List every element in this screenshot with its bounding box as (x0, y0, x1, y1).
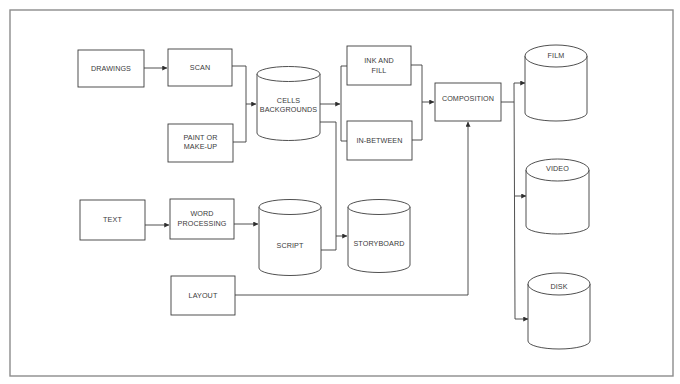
node-label: PROCESSING (178, 219, 227, 228)
node-label: TEXT (103, 215, 122, 224)
node-label: STORYBOARD (353, 239, 404, 248)
workflow-diagram: DRAWINGS SCAN PAINT OR MAKE-UP INK AND F… (0, 0, 680, 384)
node-text: TEXT (80, 200, 145, 240)
node-in-between: IN-BETWEEN (347, 121, 412, 160)
node-label: LAYOUT (189, 291, 218, 300)
node-label: VIDEO (546, 164, 569, 173)
node-label: PAINT OR (183, 133, 217, 142)
node-script: SCRIPT (259, 200, 321, 276)
node-disk: DISK (528, 273, 590, 349)
node-film: FILM (525, 45, 587, 121)
node-label: SCAN (190, 63, 210, 72)
edge-script-storyboard (321, 236, 336, 250)
node-label: IN-BETWEEN (356, 136, 402, 145)
node-label: INK AND (364, 56, 393, 65)
node-ink-fill: INK AND FILL (347, 46, 411, 85)
node-drawings: DRAWINGS (78, 50, 144, 87)
edge-output-bus (514, 83, 515, 319)
node-label: BACKGROUNDS (260, 105, 318, 114)
node-label: SCRIPT (277, 241, 304, 250)
node-cells-backgrounds: CELLS BACKGROUNDS (257, 67, 320, 141)
node-word-processing: WORD PROCESSING (170, 199, 234, 239)
node-scan: SCAN (168, 49, 232, 86)
node-label: WORD (190, 209, 213, 218)
node-label: FILL (372, 66, 387, 75)
node-label: COMPOSITION (442, 94, 494, 103)
node-video: VIDEO (526, 159, 589, 234)
edge-cells-storyboard (320, 122, 336, 236)
node-label: MAKE-UP (184, 142, 218, 151)
node-layout: LAYOUT (171, 276, 235, 315)
node-label: FILM (548, 51, 565, 60)
edge-process-merge (411, 65, 422, 140)
node-storyboard: STORYBOARD (348, 200, 410, 273)
node-label: CELLS (277, 96, 300, 105)
edge-process-split (341, 66, 347, 141)
node-label: DISK (550, 282, 567, 291)
node-paint: PAINT OR MAKE-UP (168, 124, 233, 162)
node-label: DRAWINGS (91, 64, 131, 73)
edge-scan-bus (232, 66, 246, 142)
node-composition: COMPOSITION (435, 83, 501, 121)
